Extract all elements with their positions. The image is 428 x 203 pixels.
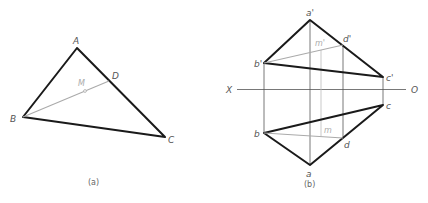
triangle-abc bbox=[23, 48, 165, 137]
label-B: B bbox=[10, 114, 16, 124]
label-a: a bbox=[306, 169, 312, 179]
label-b: b bbox=[254, 129, 260, 139]
label-c: c bbox=[386, 101, 391, 111]
label-c-prime: c' bbox=[386, 73, 393, 83]
label-m: m bbox=[324, 126, 332, 135]
top-view-triangle bbox=[264, 105, 383, 165]
front-view-triangle bbox=[264, 20, 383, 77]
axis-label-o: O bbox=[411, 85, 418, 95]
front-median bbox=[264, 45, 343, 63]
figure-b: X O a' b' c' d' m' a b c d m (b) bbox=[225, 8, 418, 189]
figure-a: A B C D M (a) bbox=[10, 36, 175, 187]
label-C: C bbox=[168, 135, 175, 145]
label-d: d bbox=[344, 140, 350, 150]
label-M: M bbox=[78, 79, 85, 88]
label-a-prime: a' bbox=[306, 8, 314, 18]
axis-label-x: X bbox=[225, 85, 233, 95]
label-m-prime: m' bbox=[315, 39, 325, 48]
label-d-prime: d' bbox=[343, 34, 351, 44]
point-m bbox=[84, 90, 87, 93]
label-b-prime: b' bbox=[254, 59, 262, 69]
label-D: D bbox=[112, 71, 119, 81]
label-A: A bbox=[72, 36, 79, 46]
diagram-canvas: A B C D M (a) X O a' b' c' d' m' a b c d… bbox=[0, 0, 428, 203]
caption-a: (a) bbox=[88, 178, 99, 187]
caption-b: (b) bbox=[304, 180, 315, 189]
